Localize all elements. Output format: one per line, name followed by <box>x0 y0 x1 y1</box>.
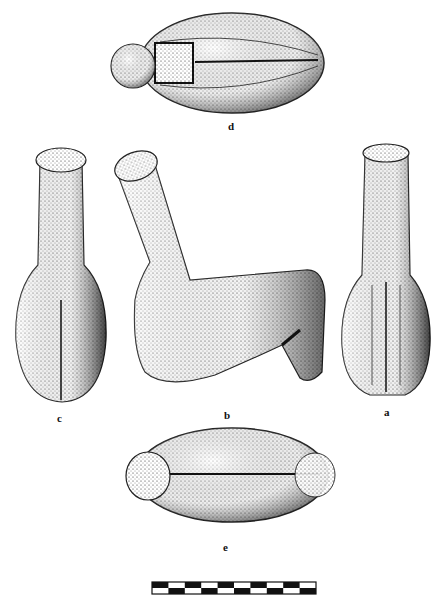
view-b <box>111 145 325 381</box>
label-e: e <box>223 541 228 553</box>
scale-bar <box>152 582 316 594</box>
label-b: b <box>224 409 230 421</box>
view-c <box>16 148 106 402</box>
label-a: a <box>384 406 390 418</box>
figurine-drawing <box>0 0 444 606</box>
label-d: d <box>228 120 234 132</box>
label-c: c <box>57 412 62 424</box>
view-e <box>126 428 335 522</box>
view-a <box>342 144 430 395</box>
view-d <box>111 13 324 113</box>
